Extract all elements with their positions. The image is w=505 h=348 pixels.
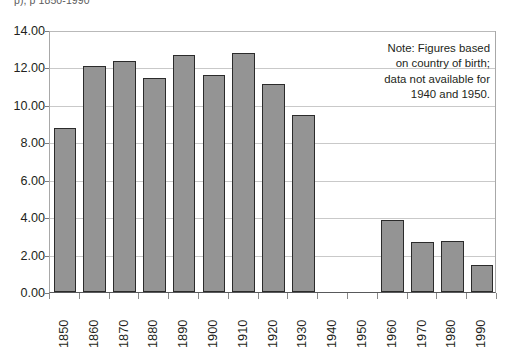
bar-1860 <box>83 66 106 292</box>
note-line-1: Note: Figures based <box>330 41 490 56</box>
chart-title-clipped: p), p 1850-1990 <box>14 0 494 6</box>
bar-1890 <box>173 55 196 292</box>
x-axis-label-1880: 1880 <box>146 302 159 348</box>
x-axis-label-1960: 1960 <box>385 302 398 348</box>
chart-note: Note: Figures based on country of birth;… <box>330 41 490 103</box>
bar-1960 <box>381 220 404 292</box>
x-axis-tick <box>168 293 169 299</box>
x-axis-label-1900: 1900 <box>206 302 219 348</box>
x-axis-label-1980: 1980 <box>444 302 457 348</box>
y-axis: 0.002.004.006.008.0010.0012.0014.00 <box>0 31 45 293</box>
y-axis-label: 8.00 <box>1 137 45 150</box>
x-axis-tick <box>466 293 467 299</box>
y-axis-label: 6.00 <box>1 175 45 188</box>
x-axis-tick <box>407 293 408 299</box>
x-axis: 1850186018701880189019001910192019301940… <box>49 293 496 343</box>
bar-1920 <box>262 84 285 292</box>
note-line-3: data not available for <box>330 72 490 87</box>
x-axis-label-1970: 1970 <box>415 302 428 348</box>
bar-1980 <box>441 241 464 292</box>
x-axis-label-1930: 1930 <box>295 302 308 348</box>
x-axis-tick <box>258 293 259 299</box>
bar-1990 <box>471 265 494 292</box>
x-axis-label-1910: 1910 <box>236 302 249 348</box>
x-axis-label-1950: 1950 <box>355 302 368 348</box>
bar-1880 <box>143 78 166 292</box>
y-axis-label: 12.00 <box>1 62 45 75</box>
x-axis-tick <box>49 293 50 299</box>
bar-1870 <box>113 61 136 292</box>
x-axis-tick <box>287 293 288 299</box>
x-axis-tick <box>496 293 497 299</box>
note-line-4: 1940 and 1950. <box>330 87 490 102</box>
x-axis-tick <box>377 293 378 299</box>
x-axis-tick <box>79 293 80 299</box>
x-axis-tick <box>228 293 229 299</box>
x-axis-tick <box>109 293 110 299</box>
x-axis-label-1850: 1850 <box>57 302 70 348</box>
bar-1900 <box>203 75 226 292</box>
x-axis-label-1860: 1860 <box>87 302 100 348</box>
x-axis-tick <box>347 293 348 299</box>
x-axis-label-1990: 1990 <box>474 302 487 348</box>
x-axis-tick <box>436 293 437 299</box>
gridline <box>50 31 495 32</box>
x-axis-label-1940: 1940 <box>325 302 338 348</box>
x-axis-tick <box>317 293 318 299</box>
note-line-2: on country of birth; <box>330 56 490 71</box>
y-axis-label: 10.00 <box>1 100 45 113</box>
y-axis-label: 0.00 <box>1 287 45 300</box>
x-axis-tick <box>198 293 199 299</box>
x-axis-label-1890: 1890 <box>176 302 189 348</box>
y-axis-label: 4.00 <box>1 212 45 225</box>
x-axis-tick <box>138 293 139 299</box>
bar-1850 <box>54 128 77 292</box>
x-axis-label-1870: 1870 <box>117 302 130 348</box>
bar-1930 <box>292 115 315 292</box>
bar-1970 <box>411 242 434 292</box>
bar-1910 <box>232 53 255 292</box>
x-axis-label-1920: 1920 <box>266 302 279 348</box>
y-axis-label: 14.00 <box>1 25 45 38</box>
y-axis-label: 2.00 <box>1 250 45 263</box>
